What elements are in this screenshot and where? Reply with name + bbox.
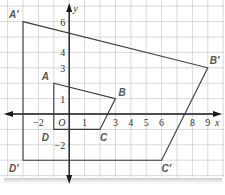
x-axis-arrow-left-icon — [4, 111, 13, 117]
axes — [4, 3, 222, 184]
x-tick-label: 1 — [82, 117, 87, 128]
grid — [0, 0, 224, 177]
vertex-label: B — [118, 87, 125, 98]
x-axis-label: x — [214, 117, 220, 128]
vertex-labels: ABCDA′B′C′D′ — [8, 9, 220, 175]
y-axis-arrow-up-icon — [66, 3, 72, 12]
x-tick-label: 8 — [190, 117, 195, 128]
vertex-label: C — [100, 132, 108, 143]
vertex-label: D′ — [9, 163, 19, 174]
origin-label: O — [58, 117, 65, 128]
y-tick-label: 1 — [60, 94, 65, 105]
vertex-label: A′ — [8, 9, 19, 20]
x-tick-label: 4 — [128, 117, 133, 128]
x-tick-label: 5 — [144, 117, 149, 128]
vertex-label: D — [42, 132, 49, 143]
x-tick-label: −2 — [33, 117, 44, 128]
vertex-label: C′ — [162, 163, 172, 174]
x-tick-label: 6 — [159, 117, 164, 128]
y-tick-label: −2 — [55, 140, 66, 151]
x-tick-label: 3 — [113, 117, 118, 128]
vertex-label: B′ — [210, 55, 220, 66]
vertex-label: A — [41, 71, 49, 82]
y-tick-label: 4 — [60, 47, 65, 58]
panel-shadow — [4, 178, 222, 186]
y-tick-label: 3 — [60, 63, 65, 74]
x-tick-label: 9 — [205, 117, 210, 128]
y-tick-label: 6 — [60, 17, 65, 28]
y-axis-label: y — [72, 3, 78, 14]
coordinate-plane: −21345689 6431−2 x y O ABCDA′B′C′D′ — [0, 0, 225, 195]
